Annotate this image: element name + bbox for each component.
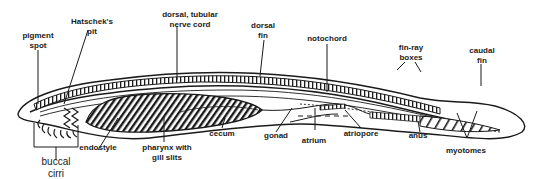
buccal-cirri-drawing xyxy=(38,108,78,138)
label-hatscheks-pit: Hatschek's pit xyxy=(71,17,113,37)
label-endostyle: endostyle xyxy=(79,143,116,153)
label-caudal-fin: caudal fin xyxy=(469,46,494,66)
label-atriopore: atriopore xyxy=(344,129,379,139)
myotome-region xyxy=(420,116,500,132)
label-pigment-spot: pigment spot xyxy=(22,31,53,51)
label-fin-ray-boxes: fin-ray boxes xyxy=(399,43,423,63)
label-pharynx-gill-slits: pharynx with gill slits xyxy=(142,143,191,163)
label-notochord: notochord xyxy=(307,34,347,44)
label-gonad: gonad xyxy=(264,131,288,141)
amphioxus-diagram: pigment spot Hatschek's pit dorsal, tubu… xyxy=(0,0,541,179)
label-anus: anus xyxy=(409,131,428,141)
label-atrium: atrium xyxy=(302,136,326,146)
label-dorsal-nerve-cord: dorsal, tubular nerve cord xyxy=(162,10,218,30)
label-cecum: cecum xyxy=(209,129,234,139)
label-myotomes: myotomes xyxy=(446,146,486,156)
label-buccal-cirri: buccal cirri xyxy=(42,156,71,179)
label-dorsal-fin: dorsal fin xyxy=(251,21,275,41)
